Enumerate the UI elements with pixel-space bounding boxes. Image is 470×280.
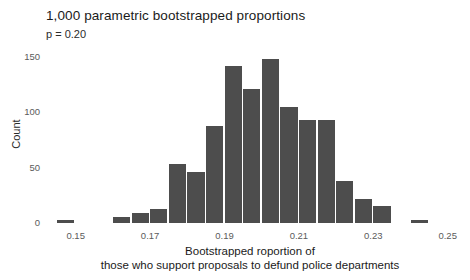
x-axis-label: Bootstrapped roportion of those who supp…: [40, 244, 460, 272]
histogram-bar: [187, 172, 204, 223]
histogram-bar: [150, 209, 167, 223]
histogram-bar: [243, 89, 260, 223]
histogram-bar: [113, 217, 130, 223]
histogram-bar: [280, 107, 297, 223]
x-axis-label-line2: those who support proposals to defund po…: [40, 258, 460, 272]
histogram-bar: [225, 66, 242, 223]
histogram-bar: [411, 220, 428, 223]
histogram-bars: [0, 42, 470, 223]
histogram-bar: [57, 220, 74, 223]
x-axis-tick-label: 0.19: [205, 230, 245, 241]
x-axis-tick-label: 0.25: [428, 230, 468, 241]
x-axis-tick-label: 0.15: [56, 230, 96, 241]
plot-area: 050100150 Count 0.150.170.190.210.230.25…: [0, 0, 470, 280]
histogram-bar: [132, 213, 149, 223]
x-axis-tick-label: 0.21: [279, 230, 319, 241]
histogram-bar: [318, 120, 335, 223]
histogram-bar: [355, 199, 372, 223]
histogram-figure: 1,000 parametric bootstrapped proportion…: [0, 0, 470, 280]
histogram-bar: [206, 126, 223, 224]
histogram-bar: [262, 59, 279, 223]
x-axis-tick-label: 0.17: [130, 230, 170, 241]
histogram-bar: [169, 164, 186, 223]
x-axis-tick-label: 0.23: [353, 230, 393, 241]
histogram-bar: [336, 181, 353, 223]
x-axis-label-line1: Bootstrapped roportion of: [40, 244, 460, 258]
histogram-bar: [299, 120, 316, 223]
histogram-bar: [373, 206, 390, 223]
